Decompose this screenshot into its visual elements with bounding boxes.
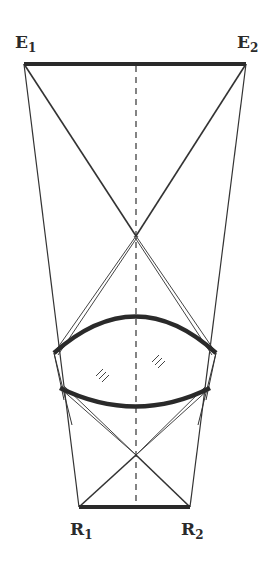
label-e2: E2 [237,32,258,55]
lens-edge-rays [54,353,216,425]
glass-hatch-right [152,355,165,368]
label-e1: E1 [15,32,36,55]
ray-e2-crossing [136,64,246,236]
lens-ray-diagram: E1 E2 R1 R2 [0,0,271,568]
ray-crossing-r1 [79,455,136,507]
ray-e1-crossing [24,64,136,236]
glass-hatch-left [96,369,109,382]
lens-upper-surface [54,317,216,354]
outer-ray-right [190,64,246,507]
label-r1: R1 [70,519,93,542]
label-r2: R2 [181,519,204,542]
outer-ray-left [24,64,79,507]
ray-crossing-r2 [136,455,190,507]
